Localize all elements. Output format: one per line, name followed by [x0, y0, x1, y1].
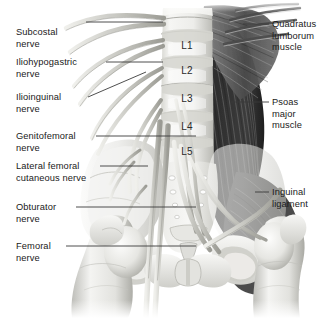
label-lateral-femoral-cutaneous-nerve: Lateral femoralcutaneous nerve [16, 161, 86, 184]
label-line: Psoas [272, 97, 302, 109]
label-line: muscle [272, 120, 302, 132]
label-line: Subcostal [16, 27, 58, 39]
vertebra-l3: L3 [181, 93, 192, 105]
label-line: nerve [16, 143, 76, 155]
label-line: ligament [272, 199, 308, 211]
label-line: nerve [16, 253, 51, 265]
label-psoas-major-muscle: Psoasmajormuscle [272, 97, 302, 132]
vertebra-l5: L5 [181, 146, 192, 158]
label-line: Genitofemoral [16, 131, 76, 143]
label-line: nerve [16, 69, 77, 81]
label-obturator-nerve: Obturatornerve [16, 202, 56, 225]
label-line: Inguinal [272, 187, 308, 199]
label-line: muscle [272, 42, 316, 54]
label-line: nerve [16, 39, 58, 51]
anatomy-figure: SubcostalnerveIliohypogastricnerveIlioin… [0, 0, 334, 318]
vertebra-l4: L4 [181, 121, 192, 133]
pubic-symphysis [175, 259, 201, 286]
vertebra-l1: L1 [181, 40, 192, 52]
label-genitofemoral-nerve: Genitofemoralnerve [16, 131, 76, 154]
label-line: nerve [16, 214, 56, 226]
vertebra-l2: L2 [181, 65, 192, 77]
label-line: Femoral [16, 241, 51, 253]
bottom-fade [0, 300, 334, 318]
label-line: Quadratus [272, 19, 316, 31]
label-femoral-nerve: Femoralnerve [16, 241, 51, 264]
label-inguinal-ligament: Inguinalligament [272, 187, 308, 210]
label-line: Obturator [16, 202, 56, 214]
label-line: Iliohypogastric [16, 57, 77, 69]
label-ilioinguinal-nerve: Ilioinguinalnerve [16, 92, 61, 115]
label-line: major [272, 109, 302, 121]
label-line: Lateral femoral [16, 161, 86, 173]
top-fade [0, 0, 334, 12]
label-line: cutaneous nerve [16, 173, 86, 185]
label-line: nerve [16, 104, 61, 116]
label-subcostal-nerve: Subcostalnerve [16, 27, 58, 50]
label-quadratus-lumborum-muscle: Quadratuslumborummuscle [272, 19, 316, 54]
label-iliohypogastric-nerve: Iliohypogastricnerve [16, 57, 77, 80]
label-line: lumborum [272, 31, 316, 43]
label-line: Ilioinguinal [16, 92, 61, 104]
